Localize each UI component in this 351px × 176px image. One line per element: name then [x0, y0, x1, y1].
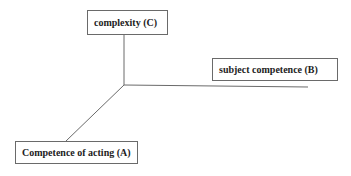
axis-c-label-box: complexity (C)	[87, 10, 168, 35]
axis-b-label-box: subject competence (B)	[212, 58, 338, 81]
axis-a-label: Competence of acting (A)	[22, 147, 131, 158]
axis-a-label-box: Competence of acting (A)	[15, 141, 138, 164]
competence-axes-diagram: complexity (C) subject competence (B) Co…	[0, 0, 351, 176]
axis-b-label: subject competence (B)	[219, 64, 318, 75]
axis-b-line	[124, 85, 308, 87]
axis-a-line	[66, 85, 124, 141]
axis-c-label: complexity (C)	[94, 17, 157, 28]
